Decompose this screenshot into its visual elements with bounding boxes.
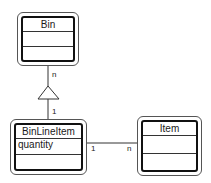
association-multiplicity-right: n [127,145,131,153]
class-name: BinLineItem [16,125,81,139]
class-item[interactable]: Item [137,116,202,176]
class-binlineitem-frame: BinLineItem quantity [14,123,83,171]
attributes-compartment [23,32,73,47]
operations-compartment [23,47,73,61]
association-multiplicity-left: 1 [91,145,95,153]
generalization-triangle-icon [38,86,59,99]
operations-compartment [16,155,81,170]
generalization-multiplicity-top: n [52,71,56,79]
operations-compartment [143,154,196,171]
class-bin-frame: Bin [21,16,75,62]
generalization-multiplicity-bottom: 1 [52,108,56,116]
class-binlineitem[interactable]: BinLineItem quantity [10,119,87,175]
attributes-compartment [143,136,196,154]
class-bin[interactable]: Bin [17,12,79,66]
attributes-compartment: quantity [16,139,81,155]
attribute-quantity: quantity [18,139,53,150]
class-name: Bin [23,18,73,32]
class-item-frame: Item [141,120,198,172]
class-name: Item [143,122,196,136]
